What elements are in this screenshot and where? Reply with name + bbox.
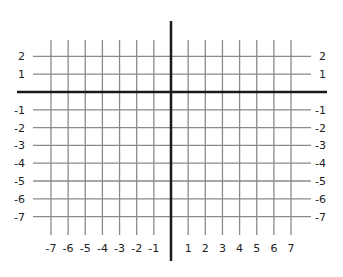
y-tick-label-left: -5 (14, 175, 25, 188)
y-tick-label-right: -5 (315, 175, 326, 188)
y-tick-label-right: -2 (315, 122, 326, 135)
x-tick-label: -7 (45, 242, 56, 255)
y-tick-label-left: -3 (14, 139, 25, 152)
y-tick-label-left: 1 (18, 68, 25, 81)
y-tick-label-right: -3 (315, 139, 326, 152)
y-tick-label-left: -2 (14, 122, 25, 135)
y-tick-label-left: -6 (14, 193, 25, 206)
x-tick-label: 6 (270, 242, 277, 255)
x-tick-label: 3 (219, 242, 226, 255)
coordinate-plane: -7-6-5-4-3-2-1123456721-1-2-3-4-5-6-721-… (0, 0, 343, 277)
y-tick-label-left: -1 (14, 104, 25, 117)
x-tick-label: -2 (131, 242, 142, 255)
x-tick-label: -1 (148, 242, 159, 255)
x-tick-label: -5 (80, 242, 91, 255)
x-tick-label: -4 (97, 242, 108, 255)
y-tick-label-left: 2 (18, 50, 25, 63)
x-tick-label: -6 (63, 242, 74, 255)
y-tick-label-left: -7 (14, 211, 25, 224)
y-tick-label-right: 1 (319, 68, 326, 81)
y-tick-label-right: -4 (315, 157, 326, 170)
x-tick-label: 4 (236, 242, 243, 255)
y-tick-label-right: 2 (319, 50, 326, 63)
y-tick-label-left: -4 (14, 157, 25, 170)
x-tick-label: 2 (202, 242, 209, 255)
y-tick-label-right: -7 (315, 211, 326, 224)
x-tick-label: 7 (288, 242, 295, 255)
x-tick-label: 1 (185, 242, 192, 255)
x-tick-label: -3 (114, 242, 125, 255)
x-tick-label: 5 (253, 242, 260, 255)
y-tick-label-right: -6 (315, 193, 326, 206)
y-tick-label-right: -1 (315, 104, 326, 117)
